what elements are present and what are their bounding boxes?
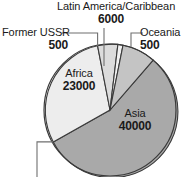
slice-label-latin-america-value: 6000	[57, 13, 165, 25]
slice-label-former-ussr-value: 500	[2, 39, 68, 51]
slice-label-oceania: Oceania 500	[140, 27, 188, 51]
slice-label-africa-value: 23000	[48, 80, 110, 92]
slice-label-latin-america-name: Latin America/Caribbean	[57, 1, 165, 12]
slice-label-africa: Africa 23000	[48, 68, 110, 92]
leader-line-bottom-left	[37, 142, 53, 177]
slice-label-asia-name: Asia	[104, 108, 166, 119]
slice-label-oceania-value: 500	[140, 39, 188, 51]
slice-label-former-ussr-name: Former USSR	[2, 27, 68, 38]
slice-label-oceania-name: Oceania	[140, 27, 188, 38]
slice-label-asia-value: 40000	[104, 120, 166, 132]
slice-label-asia: Asia 40000	[104, 108, 166, 132]
slice-label-former-ussr: Former USSR 500	[2, 27, 68, 51]
slice-label-africa-name: Africa	[48, 68, 110, 79]
pie-chart: Latin America/Caribbean 6000 Former USSR…	[0, 0, 188, 177]
slice-label-latin-america: Latin America/Caribbean 6000	[57, 1, 165, 25]
